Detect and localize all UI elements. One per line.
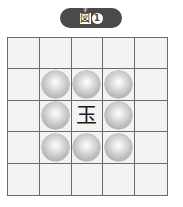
board-cell — [72, 38, 104, 69]
move-marker-icon — [73, 71, 100, 98]
board-cell — [135, 101, 167, 132]
board-cell — [8, 101, 40, 132]
move-marker-icon — [105, 71, 132, 98]
board-cell-center: 玉 — [72, 101, 104, 132]
figure-title-badge: ず 図 1 — [60, 8, 122, 28]
move-marker-icon — [73, 134, 100, 161]
board-cell — [103, 132, 135, 163]
board-cell — [103, 38, 135, 69]
board-cell — [8, 38, 40, 69]
shogi-board-diagram: 玉 — [7, 37, 168, 196]
board-cell — [40, 38, 72, 69]
board-cell — [8, 132, 40, 163]
board-cell — [40, 132, 72, 163]
board-cell — [8, 69, 40, 100]
board-cell — [72, 164, 104, 195]
board-cell — [40, 69, 72, 100]
move-marker-icon — [42, 71, 69, 98]
board-cell — [40, 101, 72, 132]
figure-label: ず 図 — [80, 13, 91, 24]
board-cell — [72, 132, 104, 163]
figure-label-text: 図 — [80, 13, 90, 24]
board-cell — [103, 101, 135, 132]
board-cell — [135, 132, 167, 163]
board-cell — [72, 69, 104, 100]
board-cell — [135, 69, 167, 100]
board-cell — [8, 164, 40, 195]
king-piece: 玉 — [76, 105, 97, 126]
board-cell — [135, 38, 167, 69]
move-marker-icon — [42, 102, 69, 129]
board-cell — [135, 164, 167, 195]
board-cell — [103, 164, 135, 195]
board-cell — [40, 164, 72, 195]
move-marker-icon — [42, 134, 69, 161]
move-marker-icon — [105, 102, 132, 129]
move-marker-icon — [105, 134, 132, 161]
figure-number: 1 — [92, 13, 103, 24]
figure-ruby: ず — [80, 6, 91, 12]
board-cell — [103, 69, 135, 100]
